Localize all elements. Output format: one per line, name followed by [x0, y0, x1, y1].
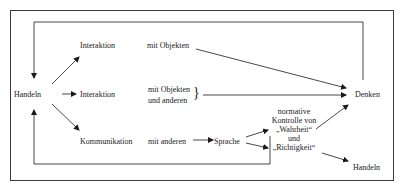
arrow-sprache-wahrheit	[246, 130, 268, 137]
normative-line-4: und	[266, 134, 322, 143]
outer-frame	[11, 11, 394, 181]
arrow-handeln-kommunikation	[52, 104, 79, 130]
node-sprache: Sprache	[214, 137, 240, 146]
arrow-handeln-interaktion-top	[52, 57, 79, 84]
node-mit-anderen: mit anderen	[148, 137, 186, 146]
normative-line-3: „Wahrheit“	[266, 125, 322, 134]
diagram-lines	[0, 0, 404, 189]
node-und-anderen: und anderen	[148, 96, 187, 105]
arrow-richtigkeit-handeln	[322, 153, 348, 161]
arrow-sprache-richtigkeit	[246, 143, 268, 148]
node-mit-objekten-top: mit Objekten	[147, 41, 189, 50]
node-kommunikation: Kommunikation	[80, 137, 132, 146]
normative-line-5: „Richtigkeit“	[266, 143, 322, 152]
brace-symbol: }	[193, 86, 200, 100]
normative-line-2: Kontrolle von	[266, 116, 322, 125]
node-interaktion-top: Interaktion	[80, 41, 115, 50]
node-handeln-right: Handeln	[353, 163, 380, 172]
arrow-objekten-denken	[196, 49, 346, 88]
node-denken: Denken	[355, 90, 380, 99]
node-normative-kontrolle: normative Kontrolle von „Wahrheit“ und „…	[266, 107, 322, 152]
node-mit-objekten-mid: mit Objekten	[148, 85, 190, 94]
normative-line-1: normative	[266, 107, 322, 116]
top-feedback-loop	[34, 22, 363, 80]
node-interaktion-mid: Interaktion	[80, 90, 115, 99]
node-handeln-left: Handeln	[14, 90, 41, 99]
